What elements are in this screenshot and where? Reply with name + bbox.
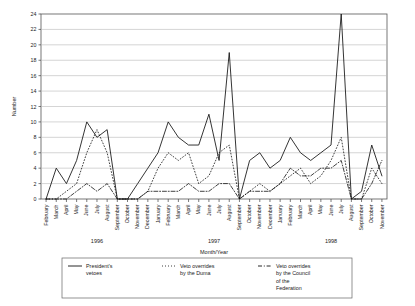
x-tick-label: October bbox=[246, 204, 252, 223]
legend-label-3: by the Council bbox=[276, 270, 310, 276]
x-tick-label: November bbox=[256, 204, 262, 229]
y-tick-label: 14 bbox=[31, 88, 37, 94]
x-tick-label: August bbox=[104, 204, 110, 221]
y-tick-label: 10 bbox=[31, 119, 37, 125]
x-tick-label: March bbox=[297, 204, 303, 219]
x-axis-title: Month/Year bbox=[200, 249, 228, 255]
y-tick-label: 0 bbox=[34, 196, 37, 202]
x-tick-label: April bbox=[307, 205, 313, 216]
y-tick-label: 24 bbox=[31, 11, 37, 17]
x-tick-label: September bbox=[236, 204, 242, 230]
x-tick-label: December bbox=[144, 204, 150, 229]
x-tick-label: January bbox=[155, 204, 161, 223]
x-tick-label: September bbox=[358, 204, 364, 230]
x-tick-label: October bbox=[124, 204, 130, 223]
x-tick-label: February bbox=[287, 204, 293, 226]
x-tick-label: June bbox=[206, 204, 212, 216]
line-chart: 024681012141618202224NumberFebruaryMarch… bbox=[0, 0, 415, 306]
x-tick-label: February bbox=[165, 204, 171, 226]
x-tick-label: September bbox=[114, 204, 120, 230]
x-axis-year-label: 1998 bbox=[325, 238, 337, 244]
y-tick-label: 20 bbox=[31, 42, 37, 48]
y-tick-label: 12 bbox=[31, 104, 37, 110]
x-tick-label: August bbox=[348, 204, 354, 221]
legend-label-2: by the Duma bbox=[180, 270, 211, 276]
y-tick-label: 8 bbox=[34, 134, 37, 140]
y-tick-label: 4 bbox=[34, 165, 37, 171]
x-tick-label: May bbox=[195, 204, 201, 214]
x-axis-year-label: 1997 bbox=[208, 238, 220, 244]
x-tick-label: April bbox=[63, 205, 69, 216]
legend-label-1: vetoes bbox=[86, 270, 102, 276]
x-tick-label: January bbox=[277, 204, 283, 223]
x-tick-label: March bbox=[53, 204, 59, 219]
x-tick-label: October bbox=[368, 204, 374, 223]
legend-label-1: President's bbox=[86, 263, 113, 269]
legend-label-2: Veto overrides bbox=[180, 263, 215, 269]
y-tick-label: 22 bbox=[31, 26, 37, 32]
x-tick-label: April bbox=[185, 205, 191, 216]
y-tick-label: 18 bbox=[31, 57, 37, 63]
x-tick-label: February bbox=[43, 204, 49, 226]
x-tick-label: June bbox=[83, 204, 89, 216]
x-tick-label: March bbox=[175, 204, 181, 219]
y-tick-label: 16 bbox=[31, 73, 37, 79]
x-tick-label: November bbox=[134, 204, 140, 229]
y-axis-title: Number bbox=[11, 97, 17, 117]
y-tick-label: 6 bbox=[34, 150, 37, 156]
x-tick-label: August bbox=[226, 204, 232, 221]
legend-label-3: Federation bbox=[276, 285, 302, 291]
x-tick-label: July bbox=[338, 204, 344, 214]
x-tick-label: July bbox=[94, 204, 100, 214]
x-tick-label: July bbox=[216, 204, 222, 214]
chart-figure: 024681012141618202224NumberFebruaryMarch… bbox=[0, 0, 415, 306]
x-axis-year-label: 1996 bbox=[91, 238, 103, 244]
legend-label-3: of the bbox=[276, 278, 290, 284]
x-tick-label: May bbox=[73, 204, 79, 214]
x-tick-label: December bbox=[267, 204, 273, 229]
legend-label-3: Veto overrides bbox=[276, 263, 311, 269]
x-tick-label: May bbox=[317, 204, 323, 214]
x-tick-label: June bbox=[328, 204, 334, 216]
x-tick-label: November bbox=[379, 204, 385, 229]
y-tick-label: 2 bbox=[34, 181, 37, 187]
